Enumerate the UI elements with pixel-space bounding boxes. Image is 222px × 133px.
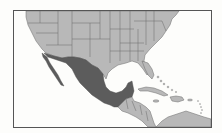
region-puerto-rico — [188, 99, 193, 101]
map-frame — [13, 10, 212, 128]
map-svg — [14, 11, 211, 127]
region-lesser-antilles — [197, 100, 202, 113]
region-hispaniola — [170, 96, 184, 102]
region-jamaica — [153, 100, 159, 102]
region-central-america — [118, 97, 156, 127]
region-cuba — [138, 87, 168, 96]
region-south-america — [156, 111, 211, 127]
